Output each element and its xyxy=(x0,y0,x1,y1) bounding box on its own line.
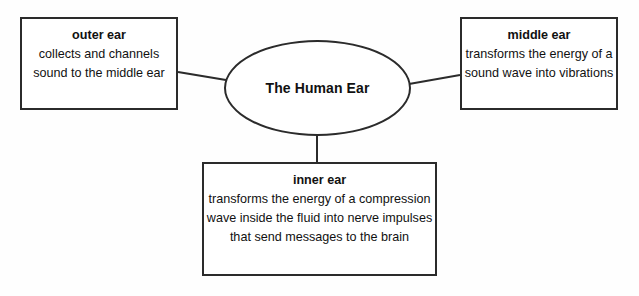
node-outer-ear[interactable]: outer ear collects and channels sound to… xyxy=(20,17,178,110)
node-outer-ear-title: outer ear xyxy=(22,26,176,45)
node-inner-ear-description: transforms the energy of a compression w… xyxy=(204,190,435,247)
node-outer-ear-description: collects and channels sound to the middl… xyxy=(22,45,176,83)
node-middle-ear-description: transforms the energy of a sound wave in… xyxy=(462,45,616,83)
connector-center-to-middle-ear xyxy=(409,75,460,84)
connector-center-to-outer-ear xyxy=(178,72,226,80)
node-middle-ear[interactable]: middle ear transforms the energy of a so… xyxy=(460,17,618,110)
node-middle-ear-title: middle ear xyxy=(462,26,616,45)
node-inner-ear[interactable]: inner ear transforms the energy of a com… xyxy=(202,162,437,276)
node-center-human-ear[interactable]: The Human Ear xyxy=(224,40,411,136)
node-inner-ear-title: inner ear xyxy=(204,171,435,190)
node-center-label: The Human Ear xyxy=(266,80,370,96)
diagram-canvas: outer ear collects and channels sound to… xyxy=(0,0,639,296)
